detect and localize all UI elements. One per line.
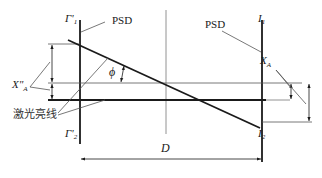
xa-prime-leader-1 [30, 62, 50, 87]
psd-laser-diagram: Γ'1 PSD PSD I1 ϕ X"A XA 激光亮线 Γ'2 I2 D [0, 0, 322, 178]
label-xa-prime: X"A [11, 78, 28, 93]
label-psd-right: PSD [205, 18, 225, 30]
label-i2: I2 [257, 127, 266, 141]
label-psd-left: PSD [112, 14, 132, 26]
label-xa: XA [259, 54, 272, 69]
label-i1: I1 [257, 12, 265, 26]
label-gamma1-prime: Γ'1 [64, 12, 77, 26]
label-gamma2-prime: Γ'2 [64, 127, 78, 141]
laser-label-leader-1 [58, 58, 108, 113]
label-phi: ϕ [109, 65, 115, 79]
label-laser-line: 激光亮线 [13, 107, 57, 121]
psd-right-leader [222, 31, 261, 52]
psd-left-leader [81, 22, 105, 32]
phi-arrow [121, 66, 124, 82]
xa-prime-leader-2 [30, 87, 50, 90]
tilted-laser-line [68, 40, 260, 128]
laser-label-leader-2 [58, 100, 105, 115]
label-distance: D [160, 141, 170, 155]
